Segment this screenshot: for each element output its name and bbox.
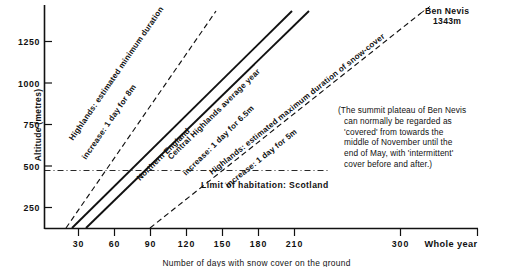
ben-nevis-name: Ben Nevis xyxy=(425,6,469,16)
series-label-highlands-minimum-rate: increase: 1 day for 8m xyxy=(80,83,138,161)
note-line-1: (The summit plateau of Ben Nevis xyxy=(338,105,466,116)
note-line-2: can normally be regarded as xyxy=(338,116,466,127)
note-line-6: cover before and after.) xyxy=(338,159,466,170)
x-tick-300: 300 xyxy=(392,239,409,249)
series-label-highlands-minimum-name: Highlands: estimated minimum duration xyxy=(67,5,165,142)
note-line-3: 'covered' from towards the xyxy=(338,127,466,138)
x-axis-tick-labels: 30 60 90 120 150 180 210 300 Whole year xyxy=(73,239,478,249)
x-tick-90: 90 xyxy=(145,239,157,249)
x-tick-180: 180 xyxy=(250,239,267,249)
y-axis-title: Altitude (metres) xyxy=(33,65,43,185)
x-tick-210: 210 xyxy=(286,239,303,249)
ben-nevis-altitude: 1343m xyxy=(425,16,469,26)
y-tick-1250: 1250 xyxy=(18,37,40,47)
note-line-4: middle of November until the xyxy=(338,137,466,148)
limit-of-habitation-label: Limit of habitation: Scotland xyxy=(201,180,329,190)
y-tick-250: 250 xyxy=(24,203,40,213)
x-tick-120: 120 xyxy=(178,239,195,249)
y-axis-ticks xyxy=(45,42,53,208)
x-axis-ticks xyxy=(79,229,478,237)
x-tick-30: 30 xyxy=(73,239,85,249)
series-label-highlands-minimum: Highlands: estimated minimum duration in… xyxy=(67,5,165,161)
annotation-snow-cover-note: (The summit plateau of Ben Nevis can nor… xyxy=(338,105,466,170)
annotation-ben-nevis: Ben Nevis 1343m xyxy=(425,6,469,27)
note-line-5: end of May, with 'intermittent' xyxy=(338,148,466,159)
x-tick-150: 150 xyxy=(214,239,231,249)
x-tick-60: 60 xyxy=(109,239,121,249)
x-label-whole-year: Whole year xyxy=(424,239,477,249)
chart-caption: Number of days with snow cover on the gr… xyxy=(0,258,513,267)
chart-figure: 1250 1000 750 500 250 30 60 90 120 150 1… xyxy=(0,0,513,267)
